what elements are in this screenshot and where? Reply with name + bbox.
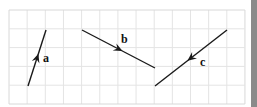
vector-a: a: [28, 30, 49, 86]
vector-b: b: [82, 30, 155, 68]
vector-b-label: b: [121, 32, 128, 46]
vector-a-label: a: [43, 51, 49, 65]
vectors: a b c: [28, 30, 227, 86]
edge-bar: [251, 0, 257, 107]
vector-c-label: c: [200, 55, 206, 69]
vector-grid-diagram: a b c: [0, 0, 257, 107]
